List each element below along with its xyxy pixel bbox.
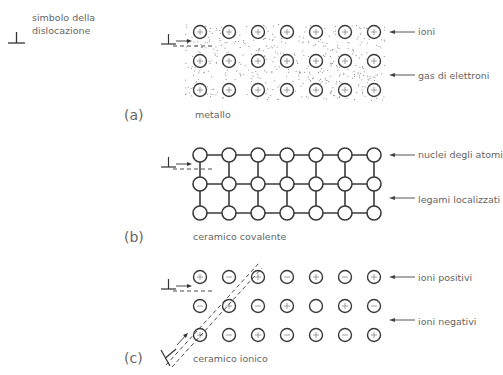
dislocation-symbol-icon: [8, 32, 25, 43]
legend-line-2: dislocazione: [32, 24, 95, 37]
panel-c-letter: (c): [124, 350, 143, 366]
label-gas-di-elettroni: gas di elettroni: [418, 70, 489, 82]
label-nuclei-degli-atomi: nuclei degli atomi: [418, 149, 503, 161]
caption-metallo: metallo: [195, 109, 231, 121]
caption-ceramico-ionico: ceramico ionico: [193, 353, 268, 365]
panel-a-letter: (a): [124, 107, 144, 123]
panel-b-letter: (b): [124, 229, 144, 245]
legend-line-1: simbolo della: [32, 11, 95, 24]
label-arrows: [389, 30, 415, 322]
label-ioni-negativi: ioni negativi: [418, 316, 476, 328]
label-ioni-positivi: ioni positivi: [418, 272, 472, 284]
caption-ceramico-covalente: ceramico covalente: [193, 231, 286, 243]
label-ioni: ioni: [418, 26, 435, 38]
label-legami-localizzati: legami localizzati: [418, 194, 500, 206]
dislocations: [161, 34, 262, 367]
legend-label: simbolo della dislocazione: [32, 11, 95, 37]
